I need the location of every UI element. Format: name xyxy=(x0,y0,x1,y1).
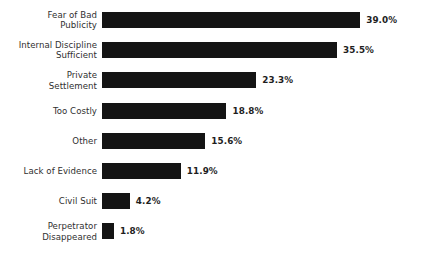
bar xyxy=(102,223,114,239)
category-label: Other xyxy=(0,136,97,146)
bar-value-label: 23.3% xyxy=(262,75,293,85)
bar-value-label: 1.8% xyxy=(120,226,145,236)
bar-row: Lack of Evidence11.9% xyxy=(0,163,422,179)
bar xyxy=(102,42,337,58)
bar-value-label: 15.6% xyxy=(211,136,242,146)
category-label: Too Costly xyxy=(0,106,97,116)
bar-value-label: 18.8% xyxy=(232,106,263,116)
bar-value-label: 4.2% xyxy=(136,196,161,206)
bar-row: Fear of Bad Publicity39.0% xyxy=(0,12,422,28)
category-label: Civil Suit xyxy=(0,196,97,206)
bar xyxy=(102,103,226,119)
bar-row: Internal Discipline Sufficient35.5% xyxy=(0,42,422,58)
bar xyxy=(102,163,181,179)
bar-row: Too Costly18.8% xyxy=(0,103,422,119)
bar-value-label: 11.9% xyxy=(187,166,218,176)
bar xyxy=(102,12,360,28)
bar-value-label: 39.0% xyxy=(366,15,397,25)
bar xyxy=(102,72,256,88)
category-label: Private Settlement xyxy=(0,70,97,90)
bar-value-label: 35.5% xyxy=(343,45,374,55)
category-label: Perpetrator Disappeared xyxy=(0,221,97,241)
bar xyxy=(102,193,130,209)
bar-row: Civil Suit4.2% xyxy=(0,193,422,209)
category-label: Internal Discipline Sufficient xyxy=(0,40,97,60)
bar-row: Private Settlement23.3% xyxy=(0,72,422,88)
bar xyxy=(102,133,205,149)
category-label: Lack of Evidence xyxy=(0,166,97,176)
bar-row: Other15.6% xyxy=(0,133,422,149)
bar-row: Perpetrator Disappeared1.8% xyxy=(0,223,422,239)
horizontal-bar-chart: Fear of Bad Publicity39.0%Internal Disci… xyxy=(0,0,422,261)
category-label: Fear of Bad Publicity xyxy=(0,10,97,30)
